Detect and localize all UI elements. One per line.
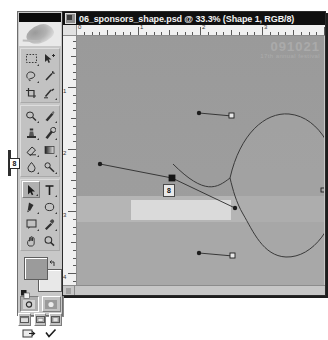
ruler-tick [270,32,271,35]
marquee-tool[interactable] [22,50,40,67]
callout-box-canvas: 8 [163,184,175,197]
screen-mode-buttons [18,313,62,326]
tool-row [22,158,58,175]
flyout-triangle-icon [53,98,57,100]
ruler-label-v: 4 [63,274,66,280]
ruler-tick [154,32,155,35]
path-anchor-points[interactable] [77,36,324,285]
tool-row [22,124,58,141]
ruler-tick [71,56,76,57]
full-screen-menubar-button[interactable] [34,313,47,326]
anchor-point-top[interactable] [229,113,234,118]
blur-tool[interactable] [22,158,40,175]
quick-mask-mode-button[interactable] [42,296,61,312]
ruler-corner[interactable] [63,25,77,36]
path-selection-tool[interactable] [22,181,40,198]
ruler-tick [73,258,76,259]
vertical-ruler[interactable]: 01234 [63,25,77,286]
ruler-tick [293,30,294,35]
eyedropper-tool[interactable] [40,215,58,232]
callout-badge-toolbox: 8 [9,158,20,169]
ruler-tick [73,188,76,189]
flyout-triangle-icon [35,121,39,123]
ruler-label-v: 2 [63,150,66,156]
ruler-tick [316,32,317,35]
photoshop-toolbox [17,11,63,316]
ruler-tick [247,32,248,35]
ruler-tick [185,32,186,35]
handle-dot-corner-right[interactable] [233,206,237,210]
ruler-tick [301,32,302,35]
document-title-bar[interactable]: 06_sponsors_shape.psd @ 33.3% (Shape 1, … [63,12,325,25]
tool-row [22,67,58,84]
ruler-tick [216,32,217,35]
toolbox-title-bar[interactable] [19,13,61,22]
flyout-triangle-icon [35,81,39,83]
ruler-tick [68,273,76,274]
full-screen-button[interactable] [49,313,62,326]
ruler-tick [71,118,76,119]
ruler-tick [73,172,76,173]
hand-tool[interactable] [22,232,40,249]
history-brush-tool[interactable] [40,124,58,141]
ruler-tick [130,32,131,35]
notes-tool[interactable] [22,215,40,232]
flyout-triangle-icon [35,229,39,231]
feather-logo-icon [24,22,56,46]
crop-tool[interactable] [22,84,40,101]
jump-button-row [18,327,62,340]
ruler-tick [208,32,209,35]
handle-dot-bottom[interactable] [197,251,201,255]
ruler-tick [73,250,76,251]
type-tool[interactable] [40,181,58,198]
foreground-color-swatch[interactable] [24,257,48,280]
dodge-tool[interactable] [40,158,58,175]
toolbox-section-vector [20,179,60,251]
jump-to-imageready-button[interactable] [21,327,39,340]
ruler-tick [73,48,76,49]
toolbox-tool-grid [20,48,60,251]
ruler-tick [73,134,76,135]
shape-tool[interactable] [40,198,58,215]
ruler-label-v: 1 [63,88,66,94]
ruler-tick [84,32,85,35]
anchor-point-right[interactable] [321,188,324,192]
magic-wand-tool[interactable] [40,67,58,84]
brush-tool[interactable] [40,107,58,124]
tool-row [22,232,58,249]
ruler-label-h: 1 [140,25,143,30]
handle-dot-top[interactable] [197,111,201,115]
ruler-tick [73,234,76,235]
anchor-point-bottom[interactable] [230,253,235,258]
slice-tool[interactable] [40,84,58,101]
clone-stamp-tool[interactable] [22,124,40,141]
tool-row [22,215,58,232]
canvas-area[interactable]: 091021 17th annual festival [77,36,324,285]
ruler-tick [115,32,116,35]
default-colors-icon[interactable] [21,285,30,294]
move-tool[interactable] [40,50,58,67]
flyout-triangle-icon [34,194,38,196]
gradient-tool[interactable] [40,141,58,158]
zoom-tool[interactable] [40,232,58,249]
healing-brush-tool[interactable] [22,107,40,124]
standard-screen-button[interactable] [18,313,31,326]
flyout-triangle-icon [35,212,39,214]
flyout-triangle-icon [53,138,57,140]
horizontal-ruler[interactable]: 01234 [76,25,325,36]
status-bar-grip[interactable] [63,286,75,295]
swap-colors-icon[interactable] [49,254,58,263]
ruler-tick [68,149,76,150]
pen-tool[interactable] [22,198,40,215]
lasso-tool[interactable] [22,67,40,84]
anchor-point-selected[interactable] [169,175,175,181]
ruler-tick [254,32,255,35]
imageready-icon[interactable] [42,327,60,340]
ruler-tick [73,110,76,111]
ruler-tick [278,32,279,35]
eraser-tool[interactable] [22,141,40,158]
ruler-label-h: 0 [78,25,81,30]
tool-row [22,141,58,158]
document-status-bar [63,285,325,295]
handle-dot-corner-left[interactable] [98,162,102,166]
